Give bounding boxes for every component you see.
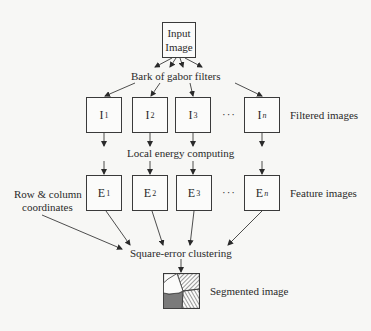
box-subscript: 3 [194, 111, 198, 120]
feature-image-box-2: E2 [132, 175, 168, 211]
input-image-box: Input Image [162, 22, 196, 58]
filter-bank-label: Bark of gabor filters [131, 70, 221, 83]
box-subscript: 2 [152, 189, 156, 198]
feature-image-box-3: E3 [176, 175, 212, 211]
filtered-image-box-1: I1 [86, 97, 122, 133]
box-letter: I [258, 108, 262, 123]
filtered-image-box-3: I3 [175, 97, 211, 133]
box-subscript: n [264, 189, 268, 198]
box-letter: E [188, 186, 195, 201]
box-letter: I [100, 108, 104, 123]
filtered-image-box-n: In [244, 97, 280, 133]
segmented-image-label: Segmented image [210, 285, 289, 298]
feature-image-box-1: E1 [86, 175, 122, 211]
input-label-line1: Input [167, 26, 190, 40]
box-letter: E [98, 186, 105, 201]
feature-ellipsis: ··· [222, 186, 236, 198]
feature-image-box-n: En [244, 175, 280, 211]
input-label-line2: Image [165, 40, 192, 54]
box-subscript: n [263, 111, 267, 120]
box-letter: E [256, 186, 263, 201]
box-subscript: 2 [151, 111, 155, 120]
box-subscript: 1 [105, 111, 109, 120]
local-energy-label: Local energy computing [127, 147, 234, 160]
clustering-label: Square-error clustering [130, 247, 232, 260]
box-subscript: 1 [106, 189, 110, 198]
row-column-label-line2: coordinates [22, 201, 73, 214]
box-subscript: 3 [196, 189, 200, 198]
row-column-label-line1: Row & column [14, 188, 82, 201]
feature-images-label: Feature images [290, 187, 357, 200]
filtered-image-box-2: I2 [132, 97, 168, 133]
box-letter: I [189, 108, 193, 123]
segmented-image-icon [163, 273, 200, 309]
box-letter: E [144, 186, 151, 201]
filtered-ellipsis: ··· [222, 108, 236, 120]
gabor-segmentation-diagram: Input Image Bark of gabor filters I1 I2 … [0, 0, 371, 331]
box-letter: I [146, 108, 150, 123]
filtered-images-label: Filtered images [290, 109, 358, 122]
